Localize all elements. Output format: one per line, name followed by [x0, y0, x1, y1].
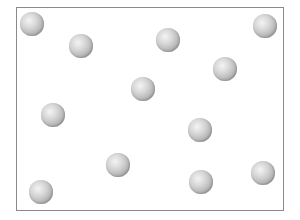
- particle-sphere: [253, 14, 277, 38]
- particle-sphere: [188, 118, 212, 142]
- particle-sphere: [131, 77, 155, 101]
- particle-sphere: [41, 103, 65, 127]
- particle-sphere: [106, 153, 130, 177]
- particle-sphere: [189, 170, 213, 194]
- particle-sphere: [213, 57, 237, 81]
- diagram-canvas: [0, 0, 300, 220]
- particle-sphere: [156, 28, 180, 52]
- particle-sphere: [251, 161, 275, 185]
- particle-sphere: [20, 12, 44, 36]
- particle-sphere: [29, 180, 53, 204]
- particle-sphere: [69, 34, 93, 58]
